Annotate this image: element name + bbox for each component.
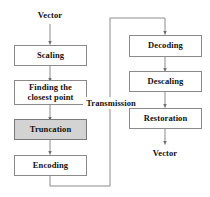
node-restoration-label: Restoration [144, 114, 188, 124]
node-truncation[interactable]: Truncation [14, 119, 87, 140]
node-decoding-label: Decoding [148, 41, 183, 51]
node-descaling[interactable]: Descaling [129, 71, 202, 92]
node-scaling[interactable]: Scaling [14, 45, 87, 66]
flowchart-diagram: Vector Scaling Finding the closest point… [0, 0, 210, 197]
node-finding-closest-point[interactable]: Finding the closest point [14, 80, 87, 105]
node-decoding[interactable]: Decoding [129, 35, 202, 57]
node-restoration[interactable]: Restoration [129, 108, 202, 129]
node-encoding[interactable]: Encoding [14, 155, 87, 176]
node-encoding-label: Encoding [33, 161, 68, 171]
input-vector-label: Vector [24, 10, 76, 20]
node-truncation-label: Truncation [30, 125, 71, 135]
output-vector-label: Vector [139, 148, 191, 158]
node-descaling-label: Descaling [148, 77, 184, 87]
node-finding-closest-point-label: Finding the closest point [15, 83, 86, 102]
node-scaling-label: Scaling [37, 51, 64, 61]
